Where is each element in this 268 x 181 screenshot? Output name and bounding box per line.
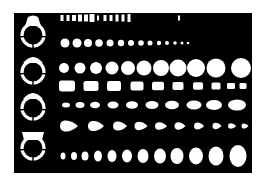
pear-row-cutout-4	[135, 122, 148, 130]
large-round-row-cutout-10	[207, 59, 226, 78]
large-round-row-cutout-3	[90, 62, 102, 74]
oval-row-cutout-4	[94, 151, 102, 162]
marquise-row-cutout-4	[108, 102, 119, 109]
baguette-slots-cutout-9	[110, 15, 113, 21]
cushion-row-cutout-8	[212, 83, 221, 90]
pear-row-cutout-1	[60, 120, 78, 131]
marquise-row-cutout-6	[146, 101, 159, 109]
oval-row-cutout-9	[171, 148, 184, 164]
small-round-row-cutout-1	[61, 39, 70, 48]
baguette-slots-cutout-2	[67, 15, 70, 21]
pear-row-cutout-6	[175, 122, 186, 129]
large-round-row-cutout-7	[153, 60, 169, 76]
cushion-row-cutout-9	[227, 83, 235, 89]
small-round-row-cutout-4	[95, 39, 103, 47]
ring-profile-1-icon	[19, 16, 47, 49]
small-round-row-cutout-14	[187, 42, 190, 45]
cushion-row-cutout-1	[59, 81, 75, 92]
marquise-row-cutout-1	[62, 103, 70, 108]
oval-row-cutout-8	[154, 149, 166, 164]
oval-row-cutout-11	[209, 147, 224, 166]
large-round-row-cutout-9	[187, 59, 205, 77]
small-round-row-cutout-3	[84, 39, 92, 47]
oval-row-cutout-7	[138, 149, 149, 163]
pear-row-cutout-8	[213, 123, 222, 129]
small-round-row-cutout-12	[173, 41, 177, 45]
marquise-row-cutout-10	[228, 100, 246, 111]
baguette-slots-cutout-10	[116, 15, 119, 22]
cushion-row-cutout-2	[84, 81, 99, 91]
pear-row-cutout-10	[242, 123, 249, 128]
marquise-row-cutout-5	[126, 101, 138, 109]
pear-row-cutout-9	[228, 123, 236, 129]
oval-row-cutout-12	[230, 145, 247, 167]
large-round-row-cutout-4	[106, 62, 119, 75]
small-round-row-cutout-5	[107, 40, 114, 47]
stencil-cutouts	[14, 13, 252, 173]
cushion-row-cutout-5	[152, 82, 164, 90]
small-round-row-cutout-11	[165, 41, 169, 45]
pear-row-cutout-7	[194, 122, 204, 129]
baguette-slots-cutout-6	[90, 14, 95, 22]
ring-profile-2-icon	[19, 57, 47, 85]
baguette-slots-cutout-12	[128, 14, 131, 22]
small-round-row-cutout-6	[118, 40, 124, 46]
baguette-slots-cutout-5	[84, 15, 88, 22]
baguette-slots-cutout-7	[97, 16, 99, 21]
small-round-row-cutout-2	[73, 39, 82, 48]
marquise-row-cutout-9	[206, 100, 222, 110]
small-round-row-cutout-8	[138, 40, 144, 46]
large-round-row-cutout-5	[121, 61, 135, 75]
large-round-row-cutout-1	[59, 63, 69, 73]
baguette-slots-cutout-11	[122, 15, 125, 22]
oval-row-cutout-6	[122, 150, 132, 163]
small-round-row-cutout-7	[128, 40, 134, 46]
baguette-slots-cutout-13	[178, 16, 180, 21]
cushion-row-cutout-4	[131, 82, 144, 91]
cushion-row-cutout-10	[240, 83, 247, 89]
large-round-row-cutout-8	[170, 60, 187, 77]
baguette-slots-cutout-8	[104, 15, 107, 21]
large-round-row-cutout-6	[137, 61, 152, 76]
oval-row-cutout-2	[71, 152, 77, 160]
pear-row-cutout-2	[88, 121, 104, 131]
cushion-row-cutout-6	[173, 82, 184, 90]
oval-row-cutout-1	[61, 153, 66, 160]
pear-row-cutout-5	[155, 122, 167, 130]
marquise-row-cutout-2	[76, 102, 85, 108]
ring-profile-3-icon	[19, 93, 47, 121]
baguette-slots-cutout-4	[78, 15, 82, 22]
oval-row-cutout-10	[189, 148, 203, 165]
large-round-row-cutout-2	[75, 63, 86, 74]
marquise-row-cutout-8	[187, 101, 202, 110]
ring-profile-4-icon	[19, 132, 47, 161]
cushion-row-cutout-3	[107, 81, 121, 91]
large-round-row-cutout-11	[231, 58, 251, 78]
small-round-row-cutout-9	[148, 41, 153, 46]
cushion-row-cutout-7	[193, 82, 203, 90]
oval-row-cutout-5	[108, 150, 117, 162]
marquise-row-cutout-3	[90, 102, 100, 108]
baguette-slots-cutout-3	[72, 15, 76, 21]
baguette-slots-cutout-1	[61, 15, 64, 21]
marquise-row-cutout-7	[165, 101, 179, 109]
small-round-row-cutout-13	[181, 42, 184, 45]
stencil-plate	[14, 13, 252, 173]
oval-row-cutout-3	[82, 152, 89, 161]
small-round-row-cutout-10	[157, 41, 161, 45]
pear-row-cutout-3	[113, 121, 127, 130]
